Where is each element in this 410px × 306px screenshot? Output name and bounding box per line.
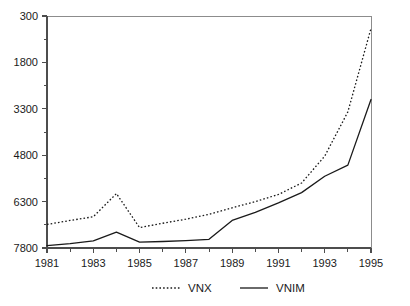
x-axis-tick-labels: 19811983198519871989199119931995	[35, 257, 383, 269]
x-tick-label: 1985	[127, 257, 151, 269]
y-tick-label: 1800	[14, 56, 38, 68]
x-tick-label: 1993	[312, 257, 336, 269]
x-axis-ticks	[47, 248, 371, 253]
plot-frame	[47, 16, 371, 248]
x-tick-label: 1989	[220, 257, 244, 269]
y-axis-ticks	[42, 16, 47, 248]
series-line-vnim	[47, 100, 371, 246]
x-tick-label: 1983	[81, 257, 105, 269]
series-line-vnx	[47, 28, 371, 227]
y-tick-label: 7800	[14, 242, 38, 254]
chart-legend: VNX VNIM	[152, 282, 305, 294]
chart-series-group	[47, 28, 371, 245]
legend-label-vnim: VNIM	[276, 282, 305, 294]
x-tick-label: 1987	[174, 257, 198, 269]
y-tick-label: 3300	[14, 103, 38, 115]
y-axis-tick-labels: 78006300480033001800300	[14, 10, 38, 254]
line-chart: 78006300480033001800300 1981198319851987…	[0, 0, 410, 306]
legend-item-vnim: VNIM	[240, 282, 305, 294]
x-tick-label: 1995	[359, 257, 383, 269]
x-tick-label: 1991	[266, 257, 290, 269]
x-tick-label: 1981	[35, 257, 59, 269]
chart-container: 78006300480033001800300 1981198319851987…	[0, 0, 410, 306]
legend-label-vnx: VNX	[188, 282, 212, 294]
legend-item-vnx: VNX	[152, 282, 212, 294]
y-tick-label: 4800	[14, 149, 38, 161]
y-tick-label: 6300	[14, 196, 38, 208]
y-tick-label: 300	[20, 10, 38, 22]
